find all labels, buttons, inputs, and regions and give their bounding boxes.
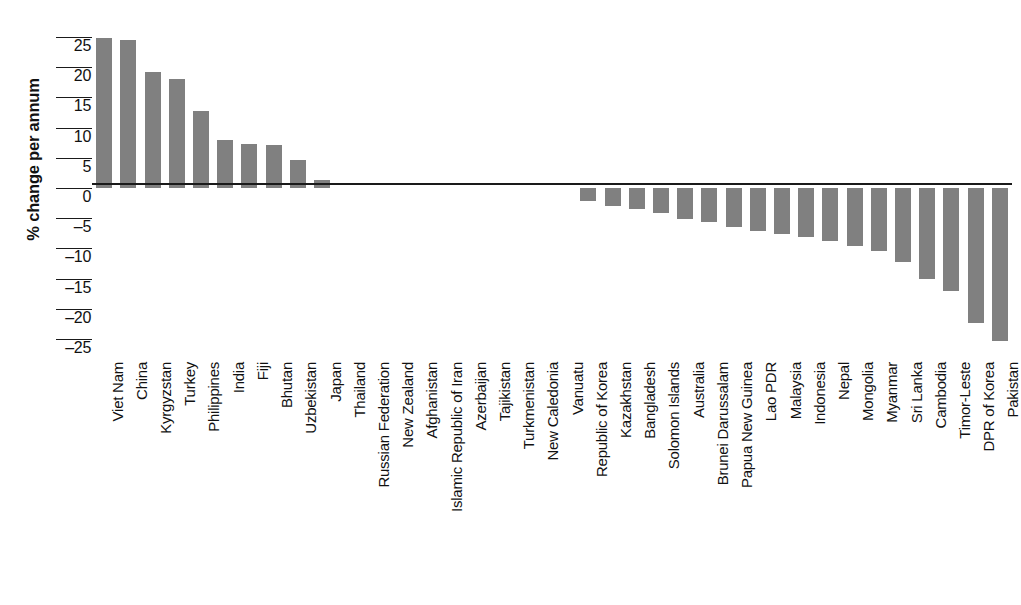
x-category-label: Republic of Korea [594,362,609,477]
x-category-label: DPR of Korea [981,362,996,452]
x-category-label: Thailand [352,362,367,418]
bar [798,188,814,237]
x-category-label: Australia [691,362,706,418]
x-category-label: Malaysia [788,362,803,419]
y-tick-label: –10 [65,249,91,265]
x-category-label: Turkey [182,362,197,406]
y-tick-label: –5 [74,219,91,235]
x-category-label: Kazakhstan [618,362,633,438]
y-tick-label: –15 [65,280,91,296]
x-category-label: Islamic Republic of Iran [449,362,464,512]
zero-baseline [92,183,1012,185]
x-axis-category-labels: Viet NamChinaKyrgyzstanTurkeyPhilippines… [92,362,1012,562]
y-axis-title: % change per annum [24,35,43,285]
bar [266,145,282,188]
x-category-label: Kyrgyzstan [158,362,173,434]
x-category-label: India [231,362,246,393]
x-category-label: Timor-Leste [957,362,972,439]
x-category-label: Japan [328,362,343,402]
x-category-label: Bangladesh [642,362,657,439]
x-category-label: Philippines [206,362,221,432]
bar [992,188,1008,341]
bar [919,188,935,279]
bar [750,188,766,231]
y-tick-label: 25 [74,38,91,54]
x-category-label: Papua New Guinea [739,362,754,488]
y-tick-label: 15 [74,98,91,114]
x-category-label: Azerbaijan [473,362,488,430]
x-category-label: Sri Lanka [909,362,924,423]
x-category-label: Bhutan [279,362,294,408]
y-tick-label: –25 [65,340,91,356]
bar [774,188,790,234]
bar [120,40,136,188]
x-category-label: Fiji [255,362,270,380]
bar [241,144,257,188]
bar [871,188,887,251]
bar [605,188,621,206]
x-category-label: Tajikistan [497,362,512,421]
y-axis-tick-labels: 2520151050–5–10–15–20–25 [52,22,92,354]
bar [726,188,742,227]
y-tick-label: 20 [74,68,91,84]
x-category-label: Myanmar [884,362,899,423]
bar [169,79,185,188]
x-category-label: Mongolia [860,362,875,421]
bar [847,188,863,246]
x-category-label: China [134,362,149,400]
x-category-label: Indonesia [812,362,827,425]
x-category-label: Cambodia [933,362,948,428]
x-category-label: Vanuatu [570,362,585,415]
bar [943,188,959,291]
x-category-label: Uzbekistan [303,362,318,434]
bar [653,188,669,213]
y-tick-label: –20 [65,310,91,326]
x-category-label: Viet Nam [110,362,125,421]
bar [629,188,645,209]
bar [895,188,911,262]
bar [96,38,112,188]
y-tick-label: 10 [74,129,91,145]
x-category-label: Turkmenistan [521,362,536,449]
x-category-label: Solomon Islands [666,362,681,469]
bar [822,188,838,241]
x-category-label: Nepal [836,362,851,400]
bar [145,72,161,188]
x-category-label: New Zealand [400,362,415,448]
bar [193,111,209,188]
bar [701,188,717,222]
bar [968,188,984,323]
x-category-label: Afghanistan [424,362,439,438]
bar-series [92,22,1012,354]
plot-area [92,22,1012,354]
bar [580,188,596,201]
x-category-label: New Caledonia [545,362,560,460]
y-tick-label: 5 [82,159,91,175]
bar [677,188,693,219]
y-tick-label: 0 [82,189,91,205]
x-category-label: Pakistan [1005,362,1020,418]
x-category-label: Russian Federation [376,362,391,488]
bar [217,140,233,188]
x-category-label: Lao PDR [763,362,778,421]
x-category-label: Brunei Darussalam [715,362,730,485]
